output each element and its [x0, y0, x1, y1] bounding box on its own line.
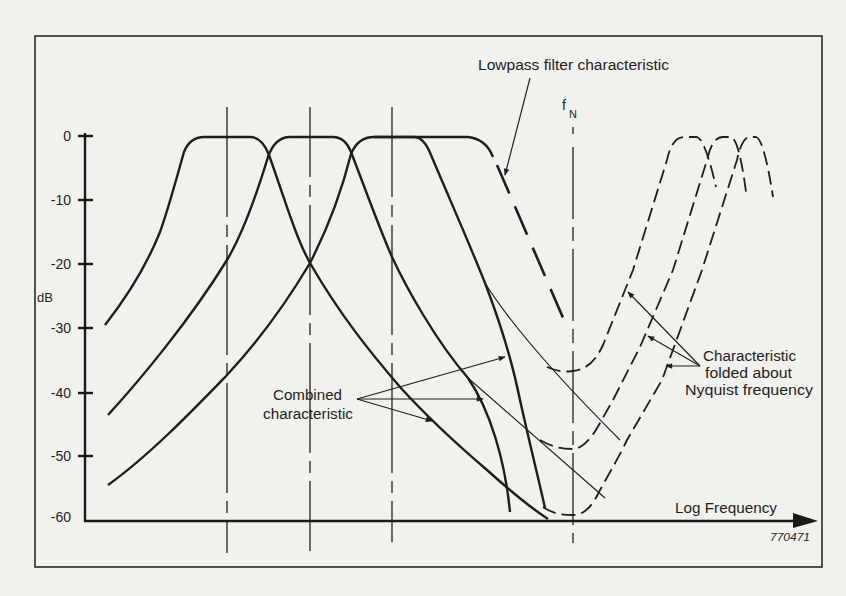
filter-response-figure: 0 -10 -20 -30 -40 -50 -60 dB Log Frequen… — [0, 0, 846, 596]
combined-label-line-2: characteristic — [263, 406, 353, 422]
folded-label-line-3: Nyquist frequency — [685, 382, 813, 398]
lowpass-label: Lowpass filter characteristic — [478, 57, 669, 73]
tick-label-minus-40: -40 — [51, 385, 71, 401]
tick-label-minus-50: -50 — [51, 448, 71, 464]
figure-number: 770471 — [770, 532, 810, 543]
tick-label-minus-30: -30 — [51, 320, 71, 336]
y-axis-label: dB — [37, 290, 53, 305]
tick-label-minus-10: -10 — [51, 192, 71, 208]
tick-label-minus-60: -60 — [51, 509, 71, 525]
nyquist-symbol: f — [562, 97, 566, 113]
folded-label-line-2: folded about — [705, 365, 792, 381]
tick-label-0: 0 — [63, 128, 71, 144]
x-axis-label: Log Frequency — [675, 500, 777, 516]
tick-label-minus-20: -20 — [51, 256, 71, 272]
nyquist-subscript: N — [569, 108, 577, 120]
folded-label-line-1: Characteristic — [703, 348, 796, 364]
combined-label-line-1: Combined — [273, 387, 342, 403]
